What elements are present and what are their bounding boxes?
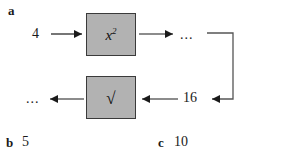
sqrt-operation-box: √ [86, 76, 136, 119]
arrow-overlay [0, 0, 306, 153]
square-operation-exponent: 2 [112, 26, 117, 36]
input-value-4: 4 [32, 27, 39, 41]
function-machine-figure: a 4 x2 ... √ 16 ... b 5 c 10 [0, 0, 306, 153]
square-operation-glyph: x2 [87, 27, 135, 43]
square-operation-box: x2 [86, 13, 136, 56]
part-b-value: 5 [22, 135, 29, 149]
part-c-value: 10 [174, 135, 188, 149]
feedback-value-16: 16 [183, 91, 197, 105]
part-label-c: c [158, 136, 164, 149]
feedback-connector [207, 33, 233, 99]
part-label-a: a [8, 4, 15, 17]
bottom-output-ellipsis: ... [26, 92, 40, 106]
top-output-ellipsis: ... [180, 28, 194, 42]
part-label-b: b [6, 136, 13, 149]
sqrt-operation-glyph: √ [87, 89, 135, 106]
